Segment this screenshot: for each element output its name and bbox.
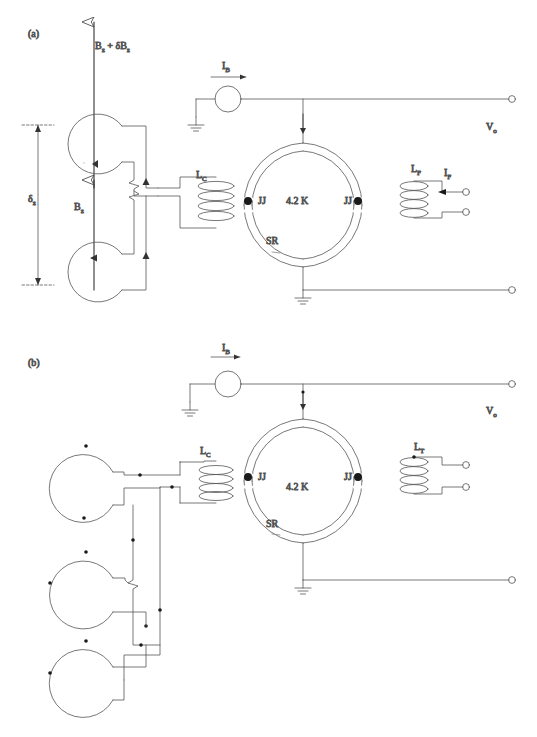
sr-a-inner-ll <box>252 205 303 259</box>
pickup-loop-b-1 <box>49 455 113 523</box>
lead-a-top-outer <box>122 126 158 188</box>
ground-icon-bias-b <box>182 402 198 416</box>
lc-a-lead-top <box>158 177 216 188</box>
feedback-terminal-a-top[interactable] <box>463 189 470 196</box>
figure-canvas: (a) Bz + δBz Bz δz LC IB <box>0 0 537 737</box>
transformer-terminal-b-bottom[interactable] <box>463 484 470 491</box>
lc-a-turn-4 <box>198 211 234 220</box>
baseline-label: δz <box>28 193 36 206</box>
coupling-coil-label-a: LC <box>196 169 207 182</box>
lt-b-turn-3 <box>400 476 428 485</box>
bias-current-label-a: IB <box>222 60 230 73</box>
lt-b-turn-1 <box>400 458 428 467</box>
lead-b2-bottom <box>113 612 146 626</box>
lf-a-turn-3 <box>400 200 428 209</box>
field-label-top: Bz + δBz <box>95 40 130 53</box>
temperature-label-a: 4.2 K <box>286 195 309 206</box>
loop-a-top-current-arrow <box>92 160 98 168</box>
output-terminal-a-bottom[interactable] <box>509 287 516 294</box>
lf-a-turn-2 <box>400 191 428 200</box>
trunk-b-left <box>128 505 160 645</box>
bias-source-b <box>215 371 241 397</box>
ground-icon-bias-a <box>188 117 204 131</box>
jj-label-a-right: JJ <box>344 195 352 206</box>
lc-b-turn-1 <box>199 466 233 475</box>
lead-b1-bottom <box>113 487 180 505</box>
lc-a-turn-1 <box>198 181 234 190</box>
pickup-loop-b-3 <box>49 650 113 718</box>
lc-b-turn-2 <box>199 475 233 484</box>
lf-a-turn-1 <box>400 182 428 191</box>
output-voltage-label-a: Vo <box>486 121 497 134</box>
sr-b-inner-lr <box>303 481 354 535</box>
ground-icon-ring-a <box>295 290 311 304</box>
lt-b-turn-4 <box>400 485 428 494</box>
sr-a-inner-lr <box>303 205 354 259</box>
field-label-bottom: Bz <box>74 201 84 214</box>
feedback-terminal-a-bottom[interactable] <box>463 209 470 216</box>
bias-source-a <box>215 86 241 112</box>
jj-label-a-left: JJ <box>258 195 266 206</box>
output-terminal-b-bottom[interactable] <box>509 577 516 584</box>
temperature-label-b: 4.2 K <box>286 481 309 492</box>
josephson-junction-b-left <box>244 473 252 481</box>
lead-b3-top <box>113 645 146 667</box>
lt-b-turn-2 <box>400 467 428 476</box>
output-terminal-a-top[interactable] <box>509 96 516 103</box>
josephson-junction-b-right <box>354 473 362 481</box>
jj-label-b-left: JJ <box>258 471 266 482</box>
lead-b2-top <box>113 578 128 583</box>
ground-icon-ring-b <box>295 580 311 594</box>
feedback-current-label-a: IF <box>444 167 451 180</box>
jj-label-b-right: JJ <box>344 471 352 482</box>
pickup-loop-b-2 <box>50 561 113 629</box>
lc-a-turn-3 <box>198 201 234 210</box>
panel-b-tag: (b) <box>28 357 40 369</box>
output-voltage-label-b: Vo <box>486 405 497 418</box>
lead-a-top-inner <box>122 162 158 196</box>
lead-a-bottom-inner <box>122 191 139 254</box>
transformer-coil-label-b: LT <box>414 441 425 454</box>
lead-b3-bottom <box>113 680 124 700</box>
lf-a-turn-4 <box>400 209 428 218</box>
circuit-diagram-svg: (a) Bz + δBz Bz δz LC IB <box>0 0 537 737</box>
feedback-coil-label-a: LF <box>411 163 421 176</box>
coupling-coil-label-b: LC <box>200 445 211 458</box>
bias-current-label-b: IB <box>222 342 230 355</box>
lc-a-turn-2 <box>198 191 234 200</box>
lc-b-lead-top <box>180 461 216 462</box>
sr-label-a: SR <box>266 235 279 246</box>
sr-b-current-arrow <box>300 404 306 410</box>
lead-a-arrow-lower <box>143 252 150 259</box>
pickup-loop-a-bottom <box>68 242 122 302</box>
output-terminal-b-top[interactable] <box>509 381 516 388</box>
josephson-junction-a-left <box>244 197 252 205</box>
transformer-terminal-b-top[interactable] <box>463 462 470 469</box>
lead-b1-top <box>113 472 180 475</box>
sr-label-b: SR <box>266 518 279 529</box>
panel-a-tag: (a) <box>28 28 39 40</box>
josephson-junction-a-right <box>354 197 362 205</box>
lead-a-arrow-upper <box>143 178 150 185</box>
